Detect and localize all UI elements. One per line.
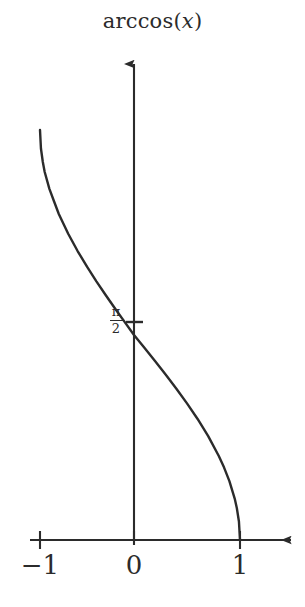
fraction-denominator: 2	[110, 321, 123, 336]
y-tick-label-pi-over-2: π 2	[103, 305, 129, 336]
arccos-curve	[40, 130, 240, 540]
fraction-pi-over-2: π 2	[110, 305, 123, 335]
plot-canvas	[0, 0, 305, 607]
fraction-numerator: π	[110, 305, 123, 320]
x-tick-label-zero: 0	[104, 552, 164, 578]
arccos-plot-figure: arccos(x) π 2 −	[0, 0, 305, 607]
x-tick-label-one: 1	[210, 552, 270, 578]
x-tick-label-neg1: −1	[10, 552, 70, 578]
